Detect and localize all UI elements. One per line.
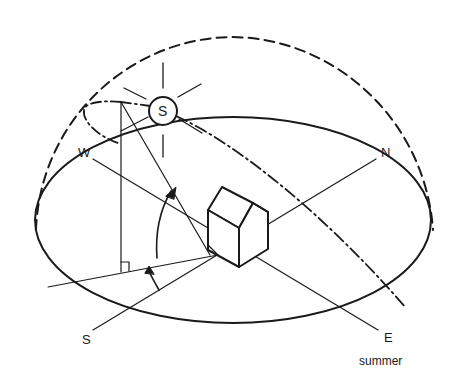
label-south: S — [82, 333, 91, 346]
label-east: E — [384, 331, 393, 344]
sun-path-diagram — [0, 0, 463, 384]
label-season: summer — [359, 355, 402, 367]
sun-path-upper — [121, 102, 150, 106]
azimuth-ground-line — [48, 255, 218, 287]
house — [208, 187, 268, 267]
label-north: N — [381, 146, 390, 159]
label-west: W — [78, 146, 90, 159]
label-sun: S — [158, 104, 167, 118]
right-angle-mark — [121, 262, 129, 271]
